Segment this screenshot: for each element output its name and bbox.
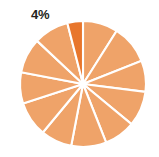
highlight-percent-label: 4%	[31, 8, 49, 22]
pie-slices-group	[20, 21, 146, 147]
pie-chart-svg	[0, 0, 159, 157]
pie-chart-figure: 4%	[0, 0, 159, 157]
